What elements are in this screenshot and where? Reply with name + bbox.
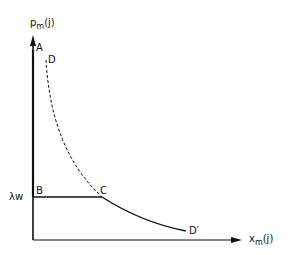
- point-label-A: A: [36, 43, 43, 53]
- curve-CD-prime: [102, 197, 186, 231]
- point-label-B: B: [36, 186, 43, 196]
- x-axis-arrow-icon: [231, 237, 242, 243]
- level-label-lambda-w: λw: [9, 192, 23, 202]
- point-label-D: D: [48, 55, 56, 65]
- diagram-canvas: [0, 0, 293, 255]
- point-label-D-prime: D′: [189, 226, 199, 236]
- y-axis-label: pm(j): [30, 18, 55, 31]
- dashed-curve-DC: [46, 60, 102, 197]
- x-axis-label: xm(j): [249, 234, 273, 247]
- point-label-C: C: [100, 186, 107, 196]
